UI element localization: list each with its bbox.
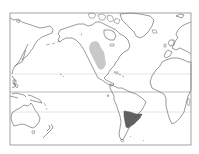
pacific-islands [60,74,109,97]
south-america-range [124,111,142,128]
asia-coastline [10,18,60,88]
greenland-coastline [120,13,157,38]
north-america-range-outlier [81,33,82,36]
maritime-southeast-asia [10,93,47,110]
australia-coastline [11,103,53,138]
europe-coastline [164,14,191,58]
world-map [0,0,199,154]
africa-coastline [150,58,191,124]
